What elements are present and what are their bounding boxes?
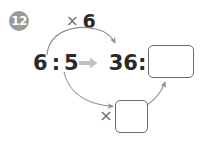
right-ratio-antecedent: 36 (109, 51, 138, 75)
answer-box-factor[interactable] (115, 100, 148, 133)
left-ratio-consequent: 5 (64, 51, 79, 75)
arc-to-factor-box (64, 72, 113, 106)
problem-number-badge: 12 (9, 11, 29, 31)
bottom-multiplication-sign-icon: × (99, 108, 113, 124)
answer-box-main[interactable] (148, 45, 194, 78)
top-operation-label: × 6 (66, 10, 96, 32)
left-ratio-antecedent: 6 (33, 51, 48, 75)
multiplication-sign-icon: × (66, 14, 79, 29)
right-ratio-separator: : (138, 50, 146, 76)
worksheet-problem: 12 × 6 6 : 5 36 : × (0, 0, 204, 142)
transform-arrow-icon (79, 57, 98, 69)
left-ratio-separator: : (48, 51, 64, 75)
top-operation-factor: 6 (83, 12, 96, 31)
